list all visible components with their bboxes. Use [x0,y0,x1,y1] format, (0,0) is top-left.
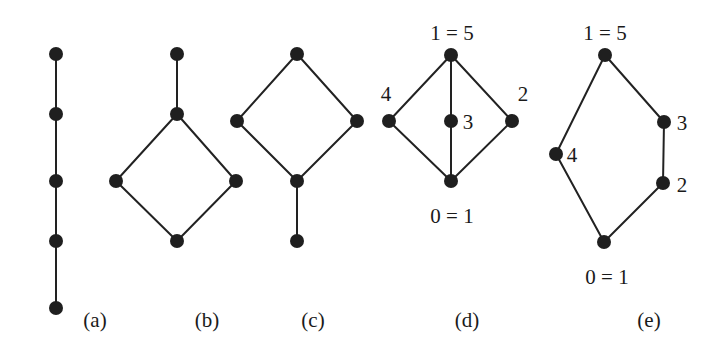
node [444,174,458,188]
hasse-diagrams-figure: (a)(b)(c)1 = 54320 = 1(d)1 = 53420 = 1(e… [0,0,724,358]
node [350,114,364,128]
node-label: 4 [381,82,392,106]
edge [451,55,512,121]
node [290,47,304,61]
node [49,234,63,248]
node [290,234,304,248]
node [170,107,184,121]
edge [389,121,451,181]
node [657,115,671,129]
edge [237,121,297,181]
node [444,114,458,128]
edge [297,54,357,121]
node-label: 3 [463,110,474,134]
node [290,174,304,188]
edge [116,114,177,181]
diagram-caption: (b) [195,308,220,332]
edge [297,121,357,181]
node-label: 1 = 5 [583,21,626,45]
edge [451,121,512,181]
diagram-caption: (a) [83,308,106,332]
node [656,176,670,190]
node [170,47,184,61]
node [229,174,243,188]
node [597,235,611,249]
edge [177,181,236,241]
node-label: 4 [567,143,578,167]
diagram-e: 1 = 53420 = 1(e) [549,21,687,332]
edge [556,55,605,154]
edge [663,122,664,183]
diagram-a: (a) [49,47,107,332]
node-label: 0 = 1 [585,265,628,289]
node-label: 3 [677,111,688,135]
diagram-d: 1 = 54320 = 1(d) [381,21,529,332]
node [230,114,244,128]
node [598,48,612,62]
node [444,48,458,62]
edge [237,54,297,121]
node [49,47,63,61]
node [49,301,63,315]
edge [556,154,604,242]
node [109,174,123,188]
node-label: 0 = 1 [430,204,473,228]
node-label: 1 = 5 [430,21,473,45]
node [170,234,184,248]
edge [604,183,663,242]
diagram-caption: (d) [455,308,480,332]
diagram-caption: (c) [301,308,324,332]
node [505,114,519,128]
edge [605,55,664,122]
node-label: 2 [677,173,688,197]
diagram-b: (b) [109,47,243,332]
diagrams-root: (a)(b)(c)1 = 54320 = 1(d)1 = 53420 = 1(e… [49,21,687,332]
node [549,147,563,161]
node-label: 2 [518,82,529,106]
node [49,174,63,188]
diagram-caption: (e) [637,308,660,332]
edge [177,114,236,181]
diagram-c: (c) [230,47,364,332]
node [382,114,396,128]
edge [116,181,177,241]
node [49,107,63,121]
edge [389,55,451,121]
